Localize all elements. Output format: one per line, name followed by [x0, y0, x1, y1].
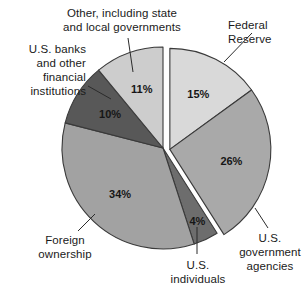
slice-value-label: 15%: [187, 88, 209, 100]
slice-value-label: 34%: [109, 188, 131, 200]
slice-value-label: 11%: [131, 83, 153, 95]
slice-value-label: 4%: [189, 215, 205, 227]
slice-label-federal-reserve: Federal Reserve: [228, 18, 302, 46]
slice-label-us-banks: U.S. banks and other financial instituti…: [2, 42, 86, 98]
slice-label-us-individuals: U.S. individuals: [160, 258, 236, 286]
leader-line-foreign: [78, 214, 95, 231]
pie-slices-group: [62, 47, 271, 249]
slice-label-foreign-ownership: Foreign ownership: [22, 233, 108, 261]
leader-line-government-agencies: [255, 208, 268, 228]
slice-value-label: 26%: [220, 155, 242, 167]
slice-value-label: 10%: [99, 108, 121, 120]
slice-label-us-government-agencies: U.S. government agencies: [236, 231, 304, 273]
slice-label-other: Other, including state and local governm…: [52, 6, 192, 34]
pie-chart-figure: 15%26%4%34%10%11% Other, including state…: [0, 0, 304, 289]
